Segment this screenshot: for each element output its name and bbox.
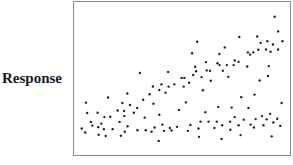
data-point — [272, 43, 274, 45]
data-point — [276, 118, 278, 120]
data-point — [124, 131, 126, 133]
data-point — [189, 124, 191, 126]
data-point — [210, 80, 212, 82]
data-point — [96, 112, 98, 114]
data-point — [81, 127, 83, 129]
data-point — [277, 48, 279, 50]
scatter-points — [74, 2, 290, 155]
data-point — [109, 116, 111, 118]
data-point — [133, 112, 135, 114]
data-point — [160, 83, 162, 85]
data-point — [187, 130, 189, 132]
data-point — [217, 106, 219, 108]
data-point — [123, 115, 125, 117]
data-point — [237, 124, 239, 126]
data-point — [91, 124, 93, 126]
data-point — [178, 109, 180, 111]
data-point — [216, 62, 218, 64]
data-point — [262, 124, 264, 126]
data-point — [259, 42, 261, 44]
data-point — [280, 102, 282, 104]
data-point — [265, 48, 267, 50]
data-point — [182, 85, 184, 87]
data-point — [207, 120, 209, 122]
data-point — [267, 75, 269, 77]
data-point — [136, 129, 138, 131]
data-point — [152, 85, 154, 87]
data-point — [105, 135, 107, 137]
data-point — [202, 89, 204, 91]
data-point — [126, 92, 128, 94]
data-point — [269, 113, 271, 115]
data-point — [209, 70, 211, 72]
data-point — [240, 96, 242, 98]
data-point — [257, 49, 259, 51]
data-point — [111, 128, 113, 130]
data-point — [198, 136, 200, 138]
data-point — [269, 51, 271, 53]
data-point — [205, 61, 207, 63]
data-point — [261, 115, 263, 117]
data-point — [199, 120, 201, 122]
data-point — [85, 101, 87, 103]
data-point — [234, 59, 236, 61]
data-point — [249, 123, 251, 125]
data-point — [234, 116, 236, 118]
data-point — [158, 114, 160, 116]
data-point — [229, 129, 231, 131]
data-point — [224, 46, 226, 48]
data-point — [279, 125, 281, 127]
data-point — [97, 134, 99, 136]
data-point — [143, 117, 145, 119]
data-point — [180, 77, 182, 79]
data-point — [163, 130, 165, 132]
plot-area — [73, 1, 291, 156]
data-point — [116, 109, 118, 111]
data-point — [232, 64, 234, 66]
data-point — [136, 107, 138, 109]
data-point — [139, 72, 141, 74]
data-point — [272, 121, 274, 123]
data-point — [170, 129, 172, 131]
data-point — [120, 135, 122, 137]
data-point — [247, 107, 249, 109]
data-point — [270, 135, 272, 137]
data-point — [183, 77, 185, 79]
data-point — [222, 70, 224, 72]
data-point — [213, 127, 215, 129]
data-point — [195, 70, 197, 72]
data-point — [185, 101, 187, 103]
data-point — [266, 118, 268, 120]
data-point — [97, 126, 99, 128]
data-point — [256, 35, 258, 37]
data-point — [229, 120, 231, 122]
data-point — [194, 66, 196, 68]
data-point — [247, 51, 249, 53]
data-point — [86, 112, 88, 114]
data-point — [253, 126, 255, 128]
data-point — [266, 40, 268, 42]
data-point — [281, 40, 283, 42]
data-point — [254, 118, 256, 120]
data-point — [167, 85, 169, 87]
data-point — [205, 69, 207, 71]
data-point — [167, 71, 169, 73]
data-point — [196, 41, 198, 43]
data-point — [191, 52, 193, 54]
data-point — [277, 30, 279, 32]
data-point — [142, 99, 144, 101]
data-point — [227, 76, 229, 78]
data-point — [188, 82, 190, 84]
data-point — [273, 16, 275, 18]
data-point — [118, 121, 120, 123]
data-point — [246, 65, 248, 67]
data-point — [173, 83, 175, 85]
data-point — [145, 129, 147, 131]
data-point — [218, 53, 220, 55]
data-point — [218, 64, 220, 66]
data-point — [100, 122, 102, 124]
data-point — [220, 138, 222, 140]
data-point — [268, 65, 270, 67]
data-point — [200, 76, 202, 78]
data-point — [148, 93, 150, 95]
